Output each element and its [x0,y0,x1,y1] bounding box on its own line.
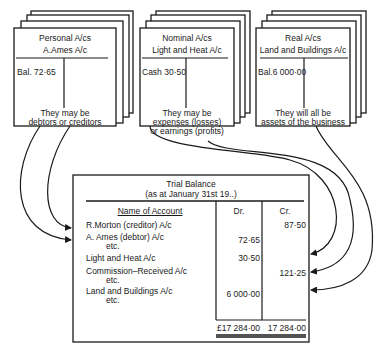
accounts-to-trial-balance-diagram: Personal A/cs A.Ames A/c Bal. 72·65 They… [0,0,383,354]
card-heading: Real A/cs [256,33,350,43]
row-name: Land and Buildings A/c [86,286,172,296]
card-entry: Bal.6 000·00 [258,67,306,77]
row-sub: etc. [106,295,120,305]
card-account-name: A.Ames A/c [14,45,116,55]
card-entry: Cash 30·50 [142,67,186,77]
card-account-name: Land and Buildings A/c [256,45,350,55]
row-dr: 72·65 [216,235,260,245]
arrow-personal-to-ames [48,126,71,228]
card-entry: Bal. 72·65 [17,67,56,77]
row-sub: etc. [106,241,120,251]
total-dr: £17 284·00 [196,323,260,333]
row-name: Light and Heat A/c [86,253,155,263]
arrow-personal-to-morton [20,126,71,240]
total-cr: 17 284·00 [258,323,306,333]
column-header-name: Name of Account [86,206,214,216]
trial-balance-title: Trial Balance [73,179,309,189]
card-note: debtors or creditors [14,117,116,127]
row-name: A. Ames (debtor) A/c [86,232,164,242]
column-header-dr: Dr. [216,206,262,216]
arrow-real-to-land-buildings [311,126,373,290]
row-name: Commission–Received A/c [86,266,187,276]
row-name: R.Morton (creditor) A/c [86,220,172,230]
column-header-cr: Cr. [262,206,308,216]
card-note: assets of the business [256,117,350,127]
card-note: or earnings (profits) [140,126,234,136]
card-heading: Personal A/cs [14,33,116,43]
row-dr: 6 000·00 [214,289,260,299]
row-dr: 30·50 [216,253,260,263]
card-account-name: Light and Heat A/c [140,45,234,55]
row-cr: 121·25 [262,268,306,278]
trial-balance-subtitle: (as at January 31st 19..) [73,189,309,199]
card-heading: Nominal A/cs [140,33,234,43]
row-sub: etc. [106,275,120,285]
row-cr: 87·50 [262,220,306,230]
